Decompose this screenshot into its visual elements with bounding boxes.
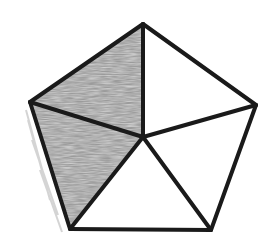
pentagon-edge-right-bottom_right — [211, 105, 256, 230]
pentagon-edge-bottom_right-bottom_left — [70, 229, 211, 230]
pentagon-edge-top-right — [143, 24, 256, 105]
diagram-canvas — [0, 0, 265, 251]
pentagon-diagram — [0, 0, 265, 251]
spoke-right — [143, 105, 256, 137]
spoke-bottom_right — [143, 137, 211, 230]
